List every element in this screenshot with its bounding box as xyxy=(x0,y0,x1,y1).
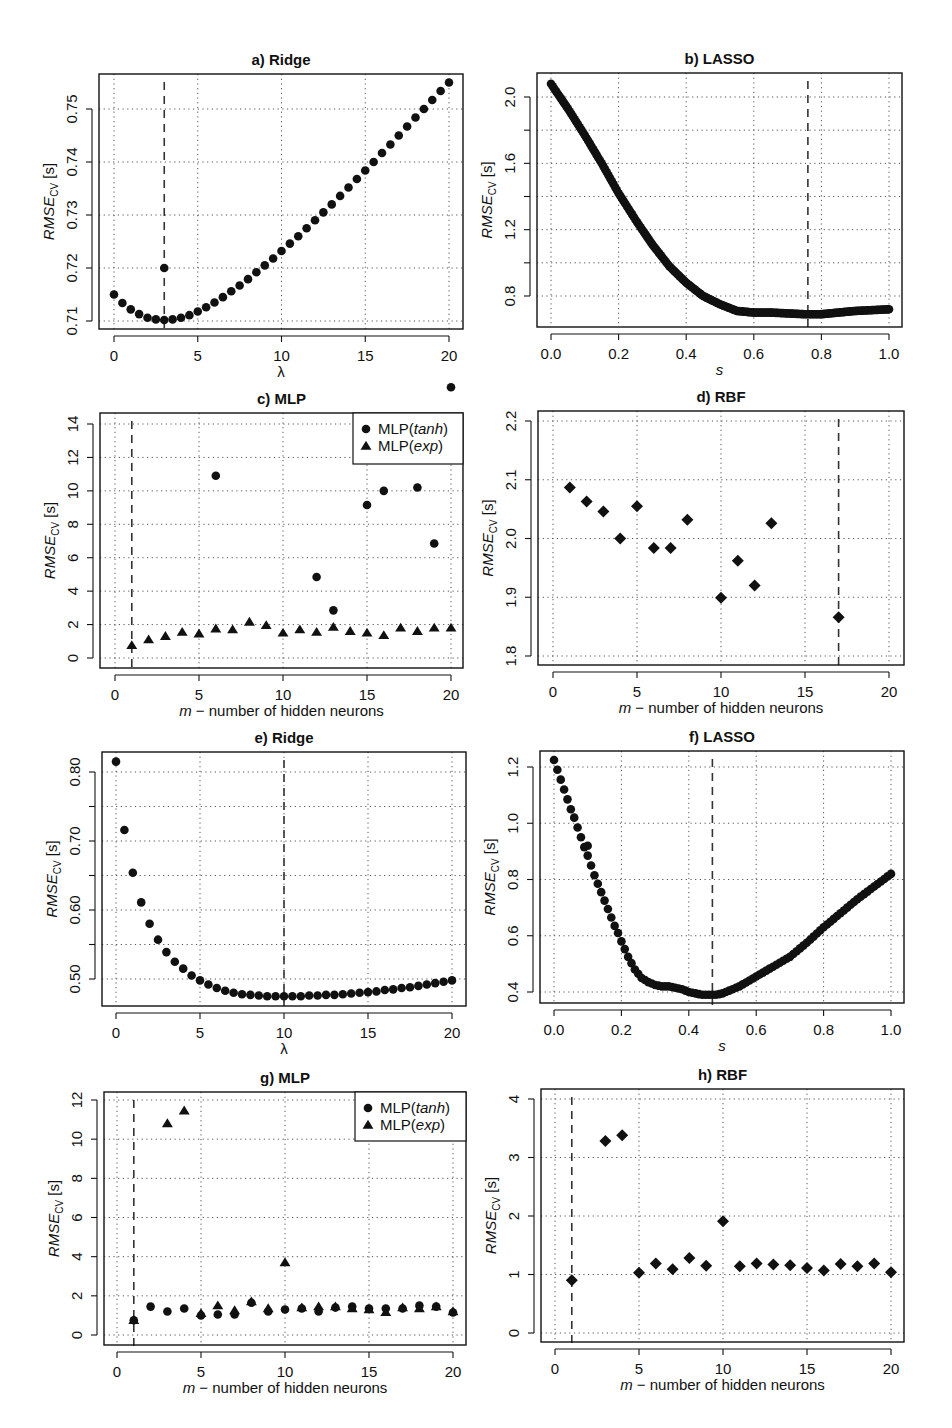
y-axis: 0.81.21.62.0 xyxy=(501,87,530,307)
y-axis: 0.500.600.700.80 xyxy=(66,757,95,993)
legend-label: MLP(tanh) xyxy=(380,1099,450,1116)
data-point xyxy=(564,481,576,493)
data-point xyxy=(430,539,439,548)
data-point xyxy=(734,1260,746,1272)
x-tick-label: 5 xyxy=(633,683,641,700)
x-tick-label: 15 xyxy=(357,347,374,364)
data-point xyxy=(202,303,211,312)
data-point xyxy=(448,976,457,985)
data-point xyxy=(633,1267,645,1279)
data-point xyxy=(135,310,144,319)
y-axis: 024681012 xyxy=(68,1092,97,1340)
data-point xyxy=(212,1300,223,1309)
y-tick-label: 1.8 xyxy=(502,646,519,667)
data-point xyxy=(683,1252,695,1264)
data-point xyxy=(277,247,286,256)
data-point xyxy=(560,785,569,794)
y-tick-label: 8 xyxy=(68,1174,85,1182)
x-tick-label: 5 xyxy=(197,1363,205,1380)
data-point xyxy=(118,299,127,308)
data-point xyxy=(583,851,592,860)
x-axis: 05101520 xyxy=(549,672,898,700)
y-axis-label: RMSECV [s] xyxy=(45,1180,65,1257)
data-point xyxy=(212,472,221,481)
panel-title: f) LASSO xyxy=(689,728,755,745)
data-point xyxy=(227,287,236,296)
data-point xyxy=(280,1257,291,1266)
data-point xyxy=(380,487,389,496)
x-tick-label: 0.4 xyxy=(678,1021,699,1038)
y-tick-label: 0.8 xyxy=(504,869,521,890)
data-point xyxy=(353,175,362,184)
data-point xyxy=(339,990,348,999)
panel-g: g) MLP05101520m − number of hidden neuro… xyxy=(45,1069,466,1396)
x-axis-label: s xyxy=(716,361,724,378)
panel-f: f) LASSO0.00.20.40.60.81.0s0.40.60.81.01… xyxy=(481,728,904,1054)
data-point xyxy=(767,1259,779,1271)
data-point xyxy=(617,937,626,946)
data-point xyxy=(784,1259,796,1271)
data-point xyxy=(563,795,572,804)
data-point xyxy=(213,984,222,993)
y-axis-label: RMSECV [s] xyxy=(478,161,498,238)
y-tick-label: 0 xyxy=(64,654,81,662)
y-tick-label: 2 xyxy=(68,1292,85,1300)
y-tick-label: 0.73 xyxy=(63,200,80,229)
data-point xyxy=(180,1304,189,1313)
x-tick-label: 20 xyxy=(445,1363,462,1380)
panel-h: h) RBF05101520m − number of hidden neuro… xyxy=(482,1066,904,1393)
data-point xyxy=(403,122,412,131)
data-point xyxy=(406,983,415,992)
data-point xyxy=(329,606,338,615)
grid xyxy=(541,1089,904,1342)
figure-canvas: a) Ridge05101520λ0.710.720.730.740.75RMS… xyxy=(0,0,952,1428)
data-point xyxy=(244,617,255,626)
data-point xyxy=(110,290,119,299)
data-point xyxy=(614,533,626,545)
x-tick-label: 20 xyxy=(443,686,460,703)
x-axis-label: m − number of hidden neurons xyxy=(183,1379,388,1396)
data-point xyxy=(835,1258,847,1270)
data-point xyxy=(196,976,205,985)
y-tick-label: 2 xyxy=(64,620,81,628)
y-tick-label: 10 xyxy=(64,483,81,500)
data-point xyxy=(361,166,370,175)
x-tick-label: 10 xyxy=(715,1360,732,1377)
data-point xyxy=(162,948,171,957)
x-tick-label: 20 xyxy=(883,1360,900,1377)
data-point xyxy=(751,1257,763,1269)
data-point xyxy=(347,989,356,998)
data-point xyxy=(193,307,202,316)
x-tick-label: 20 xyxy=(881,683,898,700)
data-point xyxy=(263,1303,274,1312)
panel-a: a) Ridge05101520λ0.710.720.730.740.75RMS… xyxy=(40,51,463,380)
y-axis: 1.81.92.02.12.2 xyxy=(502,411,531,667)
data-point xyxy=(378,630,389,639)
panel-title: a) Ridge xyxy=(251,51,310,68)
y-tick-label: 0.71 xyxy=(63,306,80,335)
data-point xyxy=(179,1106,190,1115)
data-point xyxy=(238,990,247,999)
data-point xyxy=(254,991,263,1000)
data-point xyxy=(177,627,188,636)
data-point xyxy=(446,623,457,632)
data-point xyxy=(288,992,297,1001)
panel-title: h) RBF xyxy=(698,1066,747,1083)
data-point xyxy=(439,977,448,986)
x-axis: 05101520 xyxy=(112,1013,461,1041)
x-tick-label: 0 xyxy=(112,1024,120,1041)
data-point xyxy=(145,920,154,929)
x-tick-label: 0.2 xyxy=(608,345,629,362)
data-point xyxy=(885,305,894,314)
data-point xyxy=(143,634,154,643)
data-point xyxy=(681,514,693,526)
y-tick-label: 10 xyxy=(68,1131,85,1148)
data-point xyxy=(252,268,261,277)
data-point xyxy=(313,1301,324,1310)
y-tick-label: 2.2 xyxy=(502,411,519,432)
data-point xyxy=(187,971,196,980)
data-point xyxy=(263,992,272,1001)
x-tick-label: 10 xyxy=(713,683,730,700)
data-point xyxy=(412,626,423,635)
data-point xyxy=(599,1135,611,1147)
